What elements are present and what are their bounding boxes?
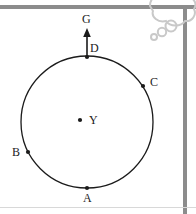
arrow-head-icon: [83, 28, 91, 37]
label-C: C: [150, 76, 158, 88]
bubble-tail-circle-3: [151, 34, 157, 40]
label-B: B: [12, 146, 20, 158]
bubble-tail-circle-2: [158, 28, 166, 36]
main-circle: [21, 56, 153, 188]
label-Y: Y: [89, 114, 98, 126]
point-marker-C: [141, 84, 145, 88]
label-A: A: [83, 192, 92, 204]
frame-top-bar: [0, 5, 196, 9]
point-marker-D: [85, 55, 89, 59]
frame-right-bar: [183, 9, 187, 214]
point-marker-B: [26, 150, 30, 154]
geometry-figure: G D C B Y A: [0, 0, 196, 214]
figure-canvas: [0, 0, 196, 214]
frame-bottom-rule: [0, 207, 196, 208]
label-D: D: [90, 42, 99, 54]
point-marker-Y: [78, 118, 82, 122]
point-marker-A: [85, 186, 89, 190]
label-G: G: [82, 13, 91, 25]
